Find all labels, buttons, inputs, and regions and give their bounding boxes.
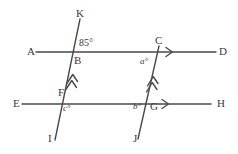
geometry-canvas <box>0 0 238 154</box>
point-label-K: K <box>76 8 84 19</box>
point-label-I: I <box>48 133 52 144</box>
geometry-diagram: A D E H K I C J B F G 85° a° c° b° <box>0 0 238 154</box>
point-label-A: A <box>27 46 35 57</box>
line-KI <box>55 19 80 140</box>
angle-label-b: b° <box>133 102 141 111</box>
point-label-J: J <box>133 133 137 144</box>
point-label-H: H <box>217 98 225 109</box>
angle-label-a: a° <box>140 57 148 66</box>
point-label-C: C <box>155 35 162 46</box>
angle-label-85: 85° <box>79 38 93 48</box>
point-label-B: B <box>74 55 81 66</box>
point-label-D: D <box>219 46 227 57</box>
angle-label-c: c° <box>63 104 71 113</box>
line-EH <box>22 100 211 109</box>
direction-marker-CJ-1 <box>148 77 159 87</box>
point-label-G: G <box>150 101 158 112</box>
point-label-F: F <box>58 87 64 98</box>
point-label-E: E <box>13 98 20 109</box>
line-AD <box>36 48 216 57</box>
